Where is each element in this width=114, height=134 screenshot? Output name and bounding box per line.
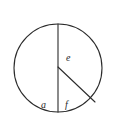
label-f: f: [65, 100, 68, 110]
label-e: e: [66, 53, 70, 63]
label-a: a: [41, 100, 46, 110]
geometry-figure: e a f: [0, 0, 114, 134]
radius-line: [58, 67, 95, 102]
geometry-canvas: [0, 0, 114, 134]
